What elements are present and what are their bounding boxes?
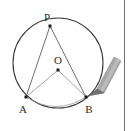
segment-pa [26, 26, 50, 97]
page-edge-rule [124, 0, 125, 131]
arc-ab [26, 97, 86, 107]
pencil-pointer [88, 57, 121, 96]
vertex-label-b: B [85, 103, 92, 115]
point-marker-o [57, 69, 60, 72]
geometry-diagram: P O A B [0, 0, 133, 131]
vertex-label-a: A [19, 103, 27, 115]
point-marker-p [49, 25, 52, 28]
figure-canvas: P O A B [0, 0, 133, 131]
segment-ob [58, 70, 86, 97]
point-marker-a [25, 96, 28, 99]
point-marker-b [85, 96, 88, 99]
vertex-label-p: P [44, 11, 50, 23]
vertex-label-o: O [54, 54, 62, 66]
